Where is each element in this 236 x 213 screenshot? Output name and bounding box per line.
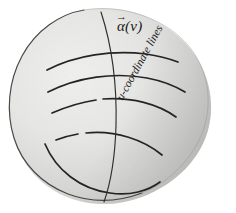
alpha-argument: (v) xyxy=(125,18,142,34)
alpha-v-label: →α(v) xyxy=(117,18,142,35)
vector-arrow-icon: → xyxy=(116,11,127,22)
surface-patch-figure: →α(v) u-coordinate lines xyxy=(0,0,236,213)
alpha-vector-symbol: →α xyxy=(117,18,125,35)
